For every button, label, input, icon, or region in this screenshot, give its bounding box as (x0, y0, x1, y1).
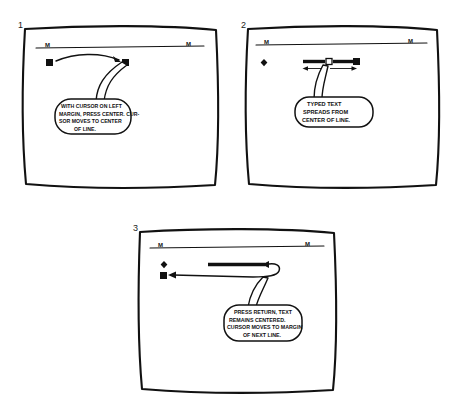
panel-3-left-margin-marker: M (158, 242, 163, 248)
panel-2-cursor-block (353, 58, 360, 65)
panel-1-caption-line-4: OF LINE. (74, 126, 96, 132)
storyboard: M M WITH CURSOR ON LEFT MARGIN, PRESS CE… (0, 0, 457, 408)
panel-3-caption-line-4: OF NEXT LINE. (243, 332, 281, 338)
panel-2-left-margin-marker: M (264, 39, 269, 45)
panel-3-caption-line-1: PRESS RETURN, TEXT (234, 309, 293, 315)
panel-1-caption-line-1: WITH CURSOR ON LEFT (61, 103, 123, 109)
panel-1-caption-line-2: MARGIN, PRESS CENTER. CUR- (59, 111, 139, 117)
panel-3-right-margin-marker: M (305, 241, 310, 247)
panel-1-left-margin-marker: M (45, 42, 50, 48)
panel-2-caption-line-3: CENTER OF LINE. (302, 117, 351, 123)
panel-1-cursor-block-left-margin (46, 59, 53, 66)
panel-1-caption-line-3: SOR MOVES TO CENTER (59, 118, 122, 124)
panel-2-number: 2 (241, 20, 246, 30)
panel-2-caption-line-1: TYPED TEXT (307, 101, 342, 107)
panel-3-number: 3 (133, 223, 138, 233)
panel-3-caption-line-2: REMAINS CENTERED. (229, 317, 286, 323)
panel-1-right-margin-marker: M (186, 41, 191, 47)
panel-2-center-mark (326, 59, 332, 65)
panel-2-right-margin-marker: M (408, 38, 413, 44)
panel-2: M M TYPED TEXT SPRE (246, 26, 439, 188)
panel-2-caption-line-2: SPREADS FROM (303, 109, 348, 115)
panel-1: M M WITH CURSOR ON LEFT MARGIN, PRESS CE… (23, 26, 218, 188)
storyboard-canvas: M M WITH CURSOR ON LEFT MARGIN, PRESS CE… (0, 0, 457, 408)
panel-1-number: 1 (18, 20, 23, 30)
panel-3-cursor-block-next-line (160, 272, 167, 279)
panel-3: M M PRESS RETURN, TEXT REMAINS CENTERED.… (139, 229, 336, 393)
panel-3-caption-line-3: CURSOR MOVES TO MARGIN (227, 324, 302, 330)
